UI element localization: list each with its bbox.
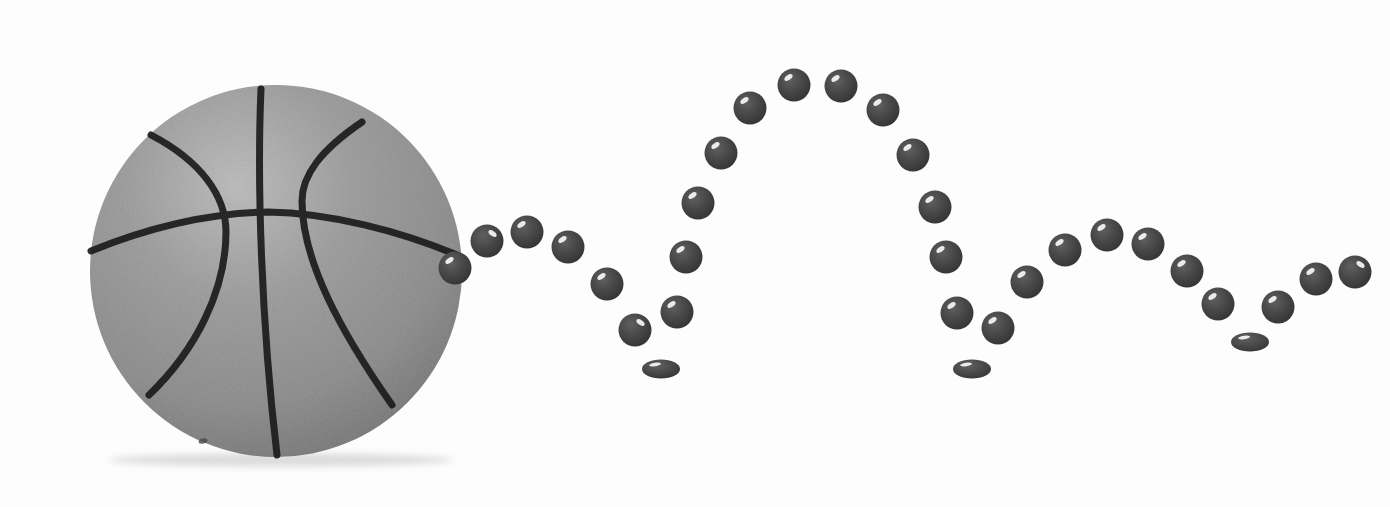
bounce-contact-dot [642,360,680,379]
dot-body [867,94,900,127]
dot-body [930,241,963,274]
dot-body [439,252,472,285]
dot-body [897,139,930,172]
bounce-contact-dot [1231,333,1269,352]
dot-body [778,69,811,102]
dot-body [919,191,952,224]
trajectory-dot [1091,219,1124,252]
trajectory-dot [1132,228,1165,261]
dot-body [1049,234,1082,267]
dot-body [670,241,703,274]
dot-body [1132,228,1165,261]
bounce-contact-dot [953,360,991,379]
figure-bouncing-basketball [0,0,1390,507]
basketball-texture [90,85,462,457]
dot-body [471,225,504,258]
trajectory-dot [439,252,472,285]
trajectory-dot [982,312,1015,345]
trajectory-dot [1262,291,1295,324]
trajectory-dot [734,92,767,125]
dot-body [1339,256,1372,289]
trajectory-dot [1049,234,1082,267]
dot-body [734,92,767,125]
trajectory-dot [511,216,544,249]
trajectory-dot [1300,263,1333,296]
dot-body [552,231,585,264]
trajectory-dot [591,268,624,301]
trajectory-dot [1339,256,1372,289]
dot-body [705,137,738,170]
dot-body [953,360,991,379]
dot-body [661,296,694,329]
dot-body [1011,266,1044,299]
dot-body [825,70,858,103]
dot-body [1202,288,1235,321]
trajectory-dot [619,314,652,347]
trajectory-dot [682,187,715,220]
dot-body [941,297,974,330]
scene-svg [0,0,1390,507]
dot-body [1300,263,1333,296]
trajectory-dot [1202,288,1235,321]
trajectory-dot [941,297,974,330]
dot-body [619,314,652,347]
trajectory-dot [705,137,738,170]
dot-body [1171,255,1204,288]
dot-body [591,268,624,301]
trajectory-dot [661,296,694,329]
trajectory-dot [919,191,952,224]
trajectory-dot [670,241,703,274]
dot-body [682,187,715,220]
trajectory-dot [1171,255,1204,288]
dot-body [1262,291,1295,324]
dot-body [1231,333,1269,352]
trajectory-dot [778,69,811,102]
trajectory-dot [930,241,963,274]
dot-body [642,360,680,379]
trajectory-dot [552,231,585,264]
dot-body [511,216,544,249]
trajectory-dot [897,139,930,172]
trajectory-dot [825,70,858,103]
trajectory-dot [867,94,900,127]
trajectory-dot [1011,266,1044,299]
dot-body [1091,219,1124,252]
basketball [90,85,462,457]
dot-body [982,312,1015,345]
trajectory-dot [471,225,504,258]
